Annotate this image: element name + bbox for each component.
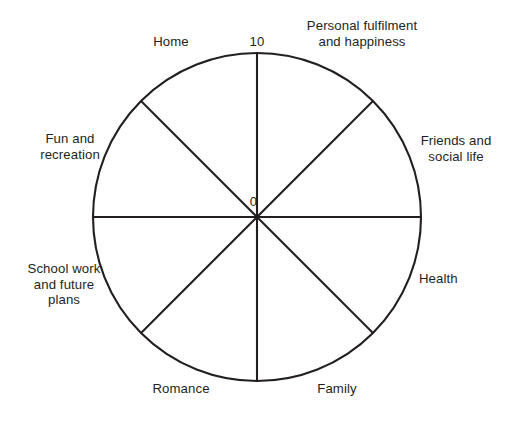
segment-label-school-work: School work and future plans [12,261,116,308]
segment-label-personal-fulfilment: Personal fulfilment and happiness [288,18,436,49]
segment-label-family: Family [300,381,374,397]
scale-max-label: 10 [238,34,276,50]
segment-label-romance: Romance [140,381,222,397]
wheel-of-life-diagram: Home Personal fulfilment and happiness F… [0,0,509,421]
segment-label-home: Home [140,34,202,50]
segment-label-health: Health [419,271,489,287]
segment-label-friends-social-life: Friends and social life [408,133,504,164]
segment-label-fun-recreation: Fun and recreation [22,131,118,162]
wheel-graphic [0,0,509,421]
scale-min-label: 0 [241,194,257,210]
